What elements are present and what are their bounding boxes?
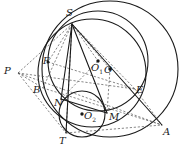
label-E: E	[136, 85, 143, 95]
label-T: T	[59, 136, 66, 146]
label-O2: O2	[84, 111, 96, 123]
seg-SO1	[72, 24, 98, 61]
label-O: O	[104, 65, 112, 75]
label-O1-sub: 1	[99, 68, 103, 75]
label-F: F	[43, 57, 49, 66]
label-O2-base: O	[84, 110, 92, 121]
label-A: A	[163, 127, 170, 137]
label-P: P	[4, 66, 11, 76]
label-M: M	[109, 112, 119, 122]
label-S: S	[66, 8, 73, 18]
geometry-figure: S P A E B N T M F O1 O O2	[0, 0, 184, 154]
label-O1-base: O	[91, 62, 99, 73]
chord-ST	[66, 24, 72, 133]
diagram-canvas	[0, 0, 184, 154]
label-N: N	[54, 98, 63, 108]
label-O1: O1	[91, 63, 103, 75]
label-B: B	[33, 85, 40, 95]
label-O2-sub: 2	[92, 116, 96, 123]
